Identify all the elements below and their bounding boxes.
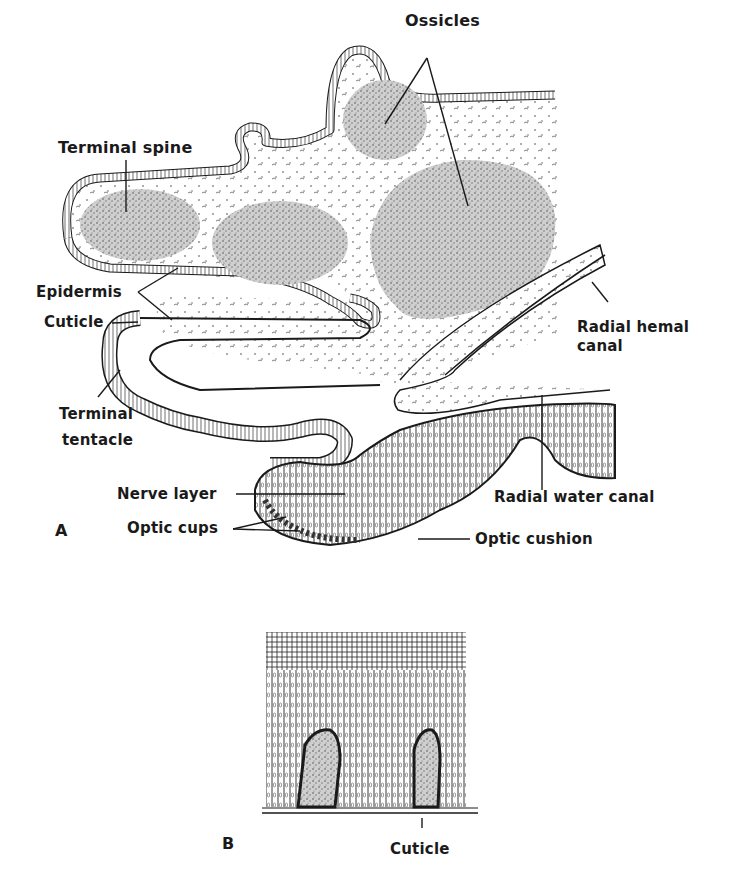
label-epidermis: Epidermis xyxy=(36,283,122,301)
label-optic-cups: Optic cups xyxy=(127,519,218,537)
optic-cup-detail xyxy=(262,632,478,813)
panel-label-b: B xyxy=(222,834,234,853)
ossicle-1 xyxy=(80,189,200,261)
label-optic-cushion: Optic cushion xyxy=(475,530,593,548)
label-nerve-layer: Nerve layer xyxy=(117,485,217,503)
optic-cup-2 xyxy=(414,730,440,807)
label-ossicles: Ossicles xyxy=(405,12,480,30)
label-radial-hemal-canal-line2: canal xyxy=(577,337,623,355)
ossicle-2 xyxy=(212,201,348,285)
panel-label-a: A xyxy=(55,521,67,540)
arm-tip-section xyxy=(67,48,615,545)
label-cuticle-a: Cuticle xyxy=(44,313,104,331)
label-terminal-tentacle-line2: tentacle xyxy=(62,431,133,449)
label-terminal-tentacle-line1: Terminal xyxy=(59,405,133,423)
label-radial-hemal-canal-line1: Radial hemal xyxy=(577,318,689,336)
label-cuticle-b: Cuticle xyxy=(390,840,450,858)
label-radial-water-canal: Radial water canal xyxy=(494,488,655,506)
label-terminal-spine: Terminal spine xyxy=(58,139,192,157)
ossicle-3 xyxy=(343,80,427,160)
